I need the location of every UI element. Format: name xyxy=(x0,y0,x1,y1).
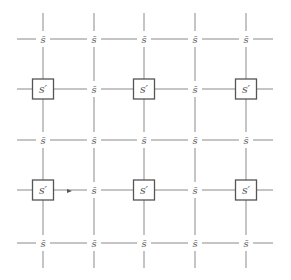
node-label: s̄ xyxy=(192,238,198,249)
node-s-bar: s̄ xyxy=(188,31,202,47)
node-s-bar: s̄ xyxy=(87,235,101,251)
node-label: s′ xyxy=(140,83,149,96)
node-label: s̄ xyxy=(91,185,97,196)
node-s-prime: s′ xyxy=(236,180,257,200)
node-label: s̄ xyxy=(192,34,198,45)
node-s-prime: s′ xyxy=(134,180,155,200)
node-label: s̄ xyxy=(91,34,97,45)
node-label: s̄ xyxy=(91,135,97,146)
node-label: s′ xyxy=(140,184,149,197)
node-label: s̄ xyxy=(141,238,147,249)
node-s-prime: s′ xyxy=(33,79,54,99)
node-label: s̄ xyxy=(141,135,147,146)
node-label: s̄ xyxy=(91,238,97,249)
node-s-bar: s̄ xyxy=(188,81,202,97)
node-s-bar: s̄ xyxy=(239,132,253,148)
node-label: s̄ xyxy=(40,135,46,146)
node-s-bar: s̄ xyxy=(137,31,151,47)
node-label: s̄ xyxy=(243,238,249,249)
node-label: s̄ xyxy=(192,185,198,196)
node-s-prime: s′ xyxy=(33,180,54,200)
node-label: s̄ xyxy=(192,135,198,146)
node-s-bar: s̄ xyxy=(239,235,253,251)
node-s-bar: s̄ xyxy=(87,182,101,198)
node-s-bar: s̄ xyxy=(137,132,151,148)
node-label: s′ xyxy=(242,184,251,197)
node-s-bar: s̄ xyxy=(87,81,101,97)
node-s-bar: s̄ xyxy=(87,31,101,47)
node-s-bar: s̄ xyxy=(36,235,50,251)
node-s-bar: s̄ xyxy=(239,31,253,47)
node-label: s′ xyxy=(39,83,48,96)
node-label: s̄ xyxy=(192,84,198,95)
node-s-prime: s′ xyxy=(236,79,257,99)
node-label: s̄ xyxy=(243,34,249,45)
node-s-bar: s̄ xyxy=(137,235,151,251)
node-s-prime: s′ xyxy=(134,79,155,99)
node-label: s̄ xyxy=(243,135,249,146)
node-s-bar: s̄ xyxy=(188,132,202,148)
lattice-diagram: s̄s̄s̄s̄s̄s′s̄s′s̄s′s̄s̄s̄s̄s̄s′s̄s′s̄s′… xyxy=(0,0,291,280)
node-label: s′ xyxy=(39,184,48,197)
node-s-bar: s̄ xyxy=(87,132,101,148)
node-label: s̄ xyxy=(141,34,147,45)
node-s-bar: s̄ xyxy=(36,31,50,47)
node-s-bar: s̄ xyxy=(188,235,202,251)
node-s-bar: s̄ xyxy=(36,132,50,148)
node-label: s̄ xyxy=(40,238,46,249)
node-s-bar: s̄ xyxy=(188,182,202,198)
node-label: s̄ xyxy=(91,84,97,95)
node-label: s̄ xyxy=(40,34,46,45)
node-label: s′ xyxy=(242,83,251,96)
